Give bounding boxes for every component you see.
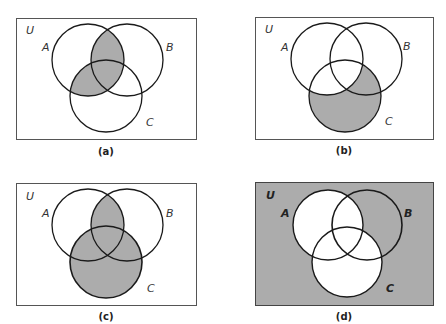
set-label-a: A <box>280 41 289 54</box>
universe-label: U <box>266 189 275 202</box>
caption-b: (b) <box>324 145 364 156</box>
set-label-b: B <box>404 207 412 220</box>
set-label-b: B <box>403 40 411 53</box>
universe-label: U <box>26 24 34 37</box>
set-label-c: C <box>146 116 154 129</box>
set-label-c: C <box>385 115 393 128</box>
venn-panel-a: U A B C <box>16 18 197 140</box>
venn-diagram-c: U A B C <box>16 183 197 306</box>
universe-label: U <box>26 190 34 203</box>
set-label-b: B <box>166 207 174 220</box>
set-label-c: C <box>386 282 394 295</box>
set-label-a: A <box>41 207 50 220</box>
venn-panel-c: U A B C <box>16 183 197 306</box>
set-label-b: B <box>166 41 174 54</box>
caption-c: (c) <box>86 311 126 322</box>
venn-diagram-b: U A B C <box>255 17 434 140</box>
set-label-c: C <box>147 282 155 295</box>
set-label-a: A <box>280 207 290 220</box>
venn-panel-d: U A B C <box>255 182 434 306</box>
caption-d: (d) <box>324 311 364 322</box>
venn-diagram-a: U A B C <box>16 18 197 140</box>
set-label-a: A <box>41 41 50 54</box>
venn-panel-b: U A B C <box>255 17 434 140</box>
universe-label: U <box>265 23 273 36</box>
caption-a: (a) <box>86 146 126 157</box>
venn-diagram-d: U A B C <box>255 182 434 306</box>
